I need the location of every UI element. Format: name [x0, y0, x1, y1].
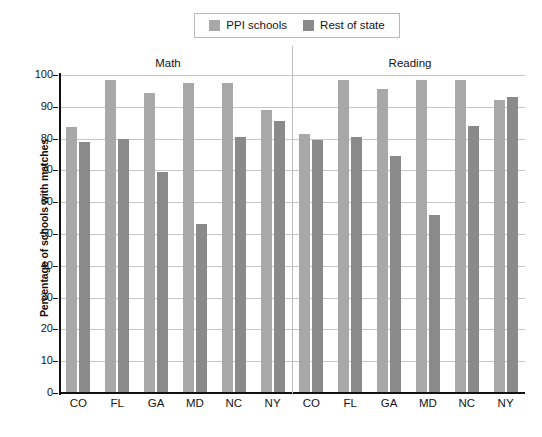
x-axis-tick-label: FL [98, 397, 136, 409]
x-axis-tick-label: NY [487, 397, 525, 409]
x-axis-tick-label: MD [409, 397, 447, 409]
bar [196, 224, 207, 393]
x-axis-tick-label: FL [331, 397, 369, 409]
y-axis-tick-label: 20 [5, 323, 53, 334]
y-axis-tick-mark [53, 361, 58, 362]
x-axis-tick-label: NC [448, 397, 486, 409]
bar [144, 93, 155, 394]
panel-divider [292, 46, 293, 394]
y-axis-tick-label: 90 [5, 101, 53, 112]
y-axis-tick-mark [53, 202, 58, 203]
bar [507, 97, 518, 393]
y-axis-tick-mark [53, 393, 58, 394]
x-axis-tick-label: GA [370, 397, 408, 409]
chart-legend: PPI schools Rest of state [194, 13, 400, 38]
bar [183, 83, 194, 393]
bar [79, 142, 90, 393]
x-axis-tick-label: CO [292, 397, 330, 409]
x-axis-tick-label: GA [137, 397, 175, 409]
y-axis-tick-mark [53, 107, 58, 108]
legend-label-rest-of-state: Rest of state [320, 20, 385, 32]
bar [312, 140, 323, 393]
y-axis-tick-label: 80 [5, 133, 53, 144]
bar [338, 80, 349, 393]
bar [494, 100, 505, 393]
panel-title-math: Math [128, 57, 208, 69]
y-axis-tick-mark [53, 266, 58, 267]
bar [105, 80, 116, 393]
x-axis-labels: COFLGAMDNCNYCOFLGAMDNCNY [59, 397, 525, 417]
bar [455, 80, 466, 393]
y-axis-tick-label: 10 [5, 355, 53, 366]
legend-label-ppi-schools: PPI schools [226, 20, 287, 32]
y-axis-tick-label: 40 [5, 260, 53, 271]
y-axis-tick-label: 30 [5, 292, 53, 303]
legend-swatch-ppi-schools [209, 20, 220, 31]
y-axis-tick-mark [53, 298, 58, 299]
y-axis-line [59, 73, 61, 395]
bar [118, 139, 129, 393]
bar [468, 126, 479, 393]
bar [157, 172, 168, 393]
y-axis-tick-label: 60 [5, 196, 53, 207]
y-axis-tick-mark [53, 139, 58, 140]
x-axis-tick-label: NC [215, 397, 253, 409]
bar [416, 80, 427, 393]
bar [222, 83, 233, 393]
y-axis-tick-label: 50 [5, 228, 53, 239]
panel-title-reading: Reading [370, 57, 450, 69]
bar [429, 215, 440, 393]
legend-item-ppi-schools: PPI schools [209, 20, 287, 32]
y-axis-tick-mark [53, 234, 58, 235]
chart-figure: PPI schools Rest of state Math Reading P… [0, 0, 542, 437]
y-axis-tick-mark [53, 329, 58, 330]
bar [299, 134, 310, 393]
bar [351, 137, 362, 393]
bar [274, 121, 285, 393]
x-axis-tick-label: CO [59, 397, 97, 409]
y-axis-tick-label: 0 [5, 387, 53, 398]
x-axis-tick-label: NY [254, 397, 292, 409]
y-axis-tick-label: 70 [5, 164, 53, 175]
x-axis-tick-label: MD [176, 397, 214, 409]
bar [390, 156, 401, 393]
bar [66, 127, 77, 393]
y-axis-tick-label: 100 [5, 69, 53, 80]
y-axis-tick-mark [53, 170, 58, 171]
y-axis-ticks: 0102030405060708090100 [0, 75, 53, 393]
legend-swatch-rest-of-state [303, 20, 314, 31]
legend-item-rest-of-state: Rest of state [303, 20, 385, 32]
y-axis-tick-mark [53, 75, 58, 76]
bar [235, 137, 246, 393]
bar [377, 89, 388, 393]
bar [261, 110, 272, 393]
